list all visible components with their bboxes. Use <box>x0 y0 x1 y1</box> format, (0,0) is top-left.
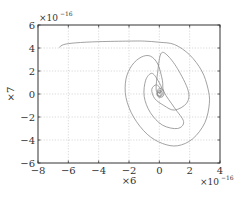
svg-text:×10: ×10 <box>200 177 219 187</box>
y-tick-labels: −6−4−20246 <box>20 20 35 169</box>
x-tick-label: 2 <box>186 165 192 176</box>
svg-text:×10: ×10 <box>39 13 58 23</box>
trajectory-line <box>59 41 209 146</box>
y-tick-label: −6 <box>20 158 35 169</box>
x-tick-label: −4 <box>91 165 106 176</box>
y-axis-label: ×7 <box>5 87 16 102</box>
x-axis-label: ×6 <box>122 175 137 186</box>
svg-text:−16: −16 <box>221 174 234 181</box>
grid-lines <box>38 25 220 163</box>
y-tick-label: 4 <box>29 43 35 54</box>
x-tick-label: −6 <box>61 165 76 176</box>
x-tick-label: 0 <box>156 165 162 176</box>
y-tick-label: −4 <box>20 135 35 146</box>
phase-plot: −8−6−4−2024 −6−4−20246 ×6 ×7 ×10 −16 ×10… <box>0 0 242 199</box>
y-tick-label: −2 <box>20 112 35 123</box>
y-tick-label: 6 <box>29 20 35 31</box>
y-tick-label: 0 <box>29 89 35 100</box>
trajectory-curve <box>59 41 209 146</box>
svg-text:−16: −16 <box>60 10 73 17</box>
y-exponent-label: ×10 −16 <box>39 10 73 23</box>
y-tick-label: 2 <box>29 66 35 77</box>
